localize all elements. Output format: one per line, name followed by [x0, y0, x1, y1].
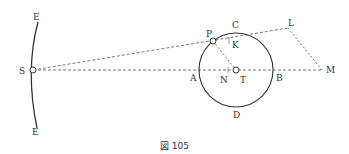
label-K: K	[232, 40, 239, 50]
label-M: M	[326, 65, 335, 75]
label-P: P	[206, 29, 212, 39]
label-A: A	[189, 73, 197, 83]
label-L: L	[288, 18, 294, 28]
label-C: C	[232, 20, 239, 30]
label-N: N	[220, 75, 228, 85]
label-E-top: E	[33, 12, 40, 22]
point-T	[233, 67, 239, 73]
point-S	[30, 67, 36, 73]
label-T: T	[240, 75, 246, 85]
label-D: D	[233, 110, 240, 120]
label-B: B	[276, 73, 283, 83]
label-E-bottom: E	[32, 127, 39, 137]
line-LM	[288, 28, 322, 70]
line-SL	[33, 28, 288, 70]
label-S: S	[19, 66, 25, 76]
arc-EE	[31, 22, 38, 128]
geometry-diagram: E E S P C K L A N T B M D 図 105	[0, 0, 349, 154]
figure-caption: 図 105	[160, 141, 189, 151]
